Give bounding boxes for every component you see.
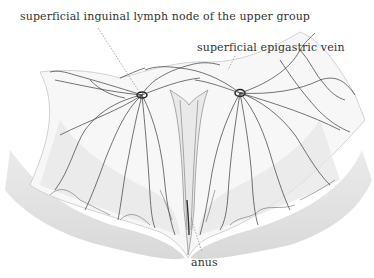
label-epigastric-vein: superficial epigastric vein <box>197 41 345 54</box>
label-upper-lymph-node: superficial inguinal lymph node of the u… <box>20 10 310 23</box>
label-anus: anus <box>191 256 218 269</box>
anatomical-figure: superficial inguinal lymph node of the u… <box>0 0 374 278</box>
